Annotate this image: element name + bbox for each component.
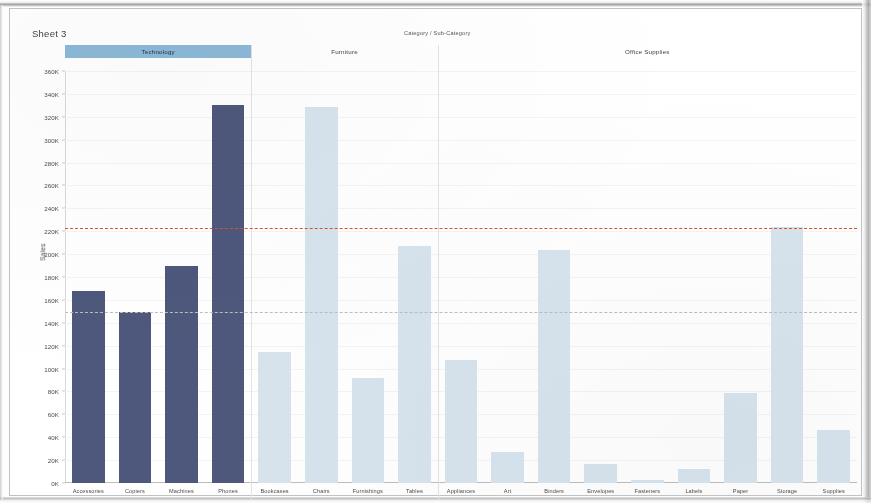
- scan-edge-bottom: [0, 497, 871, 503]
- y-axis-tick-label: 60K: [48, 411, 59, 418]
- bar-art[interactable]: [491, 452, 524, 483]
- y-axis-tick-mark: [62, 185, 65, 186]
- y-axis-tick-mark: [62, 254, 65, 255]
- x-axis-label-bookcases[interactable]: Bookcases: [261, 488, 289, 494]
- y-axis-tick-mark: [62, 460, 65, 461]
- y-axis-tick-label: 120K: [44, 342, 59, 349]
- sheet-title: Sheet 3: [32, 28, 67, 39]
- bar-storage[interactable]: [771, 227, 804, 483]
- x-axis-label-fasteners[interactable]: Fasteners: [634, 488, 660, 494]
- gridline: [65, 231, 857, 232]
- scan-edge-left: [0, 5, 3, 500]
- y-axis-tick-label: 140K: [44, 319, 59, 326]
- bar-chairs[interactable]: [305, 107, 338, 483]
- category-separator: [251, 45, 252, 500]
- y-axis-tick-mark: [62, 93, 65, 94]
- x-axis-label-storage[interactable]: Storage: [777, 488, 797, 494]
- y-axis-tick-label: 260K: [44, 182, 59, 189]
- x-axis-label-machines[interactable]: Machines: [169, 488, 194, 494]
- y-axis-tick-mark: [62, 162, 65, 163]
- gridline: [65, 94, 857, 95]
- category-separator: [438, 45, 439, 500]
- x-axis-label-chairs[interactable]: Chairs: [313, 488, 330, 494]
- reference-line-median[interactable]: [65, 312, 857, 313]
- y-axis-tick-label: 100K: [44, 365, 59, 372]
- gridline: [65, 163, 857, 164]
- y-axis-tick-label: 360K: [44, 68, 59, 75]
- x-axis-label-tables[interactable]: Tables: [406, 488, 423, 494]
- y-axis-tick-label: 0K: [51, 480, 59, 487]
- y-axis-tick-label: 320K: [44, 113, 59, 120]
- gridline: [65, 117, 857, 118]
- bar-bookcases[interactable]: [258, 352, 291, 483]
- y-axis-tick-label: 220K: [44, 228, 59, 235]
- bar-copiers[interactable]: [119, 312, 152, 483]
- y-axis-tick-label: 40K: [48, 434, 59, 441]
- bar-furnishings[interactable]: [352, 378, 385, 483]
- x-axis-label-art[interactable]: Art: [504, 488, 511, 494]
- reference-line-average[interactable]: [65, 228, 857, 229]
- x-axis-label-phones[interactable]: Phones: [218, 488, 238, 494]
- y-axis-tick-label: 300K: [44, 136, 59, 143]
- y-axis-tick-label: 80K: [48, 388, 59, 395]
- gridline: [65, 254, 857, 255]
- x-axis-label-appliances[interactable]: Appliances: [447, 488, 475, 494]
- y-axis-tick-mark: [62, 208, 65, 209]
- y-axis-tick-mark: [62, 299, 65, 300]
- bar-phones[interactable]: [212, 105, 245, 483]
- y-axis-tick-mark: [62, 71, 65, 72]
- gridline: [65, 140, 857, 141]
- chart-plot-area: 0K20K40K60K80K100K120K140K160K180K200K22…: [65, 71, 857, 483]
- x-axis-label-accessories[interactable]: Accessories: [73, 488, 104, 494]
- x-axis-label-envelopes[interactable]: Envelopes: [587, 488, 614, 494]
- y-axis-tick-label: 160K: [44, 296, 59, 303]
- field-header-category-subcategory[interactable]: Category / Sub-Category: [404, 30, 470, 36]
- gridline: [65, 185, 857, 186]
- y-axis-tick-mark: [62, 414, 65, 415]
- y-axis-tick-label: 180K: [44, 274, 59, 281]
- x-axis-label-labels[interactable]: Labels: [685, 488, 702, 494]
- gridline: [65, 71, 857, 72]
- bar-envelopes[interactable]: [584, 464, 617, 483]
- y-axis-tick-label: 240K: [44, 205, 59, 212]
- bar-appliances[interactable]: [445, 360, 478, 483]
- y-axis-tick-label: 200K: [44, 251, 59, 258]
- scan-edge-top: [0, 0, 871, 7]
- bar-labels[interactable]: [678, 469, 711, 483]
- scan-edge-right: [862, 0, 871, 503]
- bar-fasteners[interactable]: [631, 480, 664, 483]
- y-axis-tick-label: 20K: [48, 457, 59, 464]
- bar-supplies[interactable]: [817, 430, 850, 483]
- screenshot-root: FileDataWorksheetDashboardStoryAnalysisM…: [0, 0, 871, 503]
- chart-canvas: 0K20K40K60K80K100K120K140K160K180K200K22…: [65, 71, 857, 483]
- y-axis-tick-label: 280K: [44, 159, 59, 166]
- y-axis-tick-mark: [62, 483, 65, 484]
- worksheet-card: Sheet 3 Sales 0K20K40K60K80K100K120K140K…: [9, 8, 862, 496]
- x-axis-label-copiers[interactable]: Copiers: [125, 488, 145, 494]
- category-header-technology[interactable]: Technology: [65, 45, 251, 58]
- gridline: [65, 208, 857, 209]
- y-axis-tick-label: 340K: [44, 90, 59, 97]
- y-axis-tick-mark: [62, 368, 65, 369]
- bar-tables[interactable]: [398, 246, 431, 483]
- bar-accessories[interactable]: [72, 291, 105, 483]
- y-axis-tick-mark: [62, 437, 65, 438]
- x-axis-label-paper[interactable]: Paper: [733, 488, 748, 494]
- y-axis-tick-mark: [62, 231, 65, 232]
- bar-binders[interactable]: [538, 250, 571, 483]
- x-axis-label-binders[interactable]: Binders: [544, 488, 564, 494]
- y-axis-tick-mark: [62, 345, 65, 346]
- x-axis-label-furnishings[interactable]: Furnishings: [353, 488, 383, 494]
- category-header-office-supplies[interactable]: Office Supplies: [438, 45, 857, 58]
- y-axis-tick-mark: [62, 277, 65, 278]
- y-axis-tick-mark: [62, 139, 65, 140]
- x-axis-label-supplies[interactable]: Supplies: [823, 488, 845, 494]
- y-axis-tick-mark: [62, 322, 65, 323]
- category-header-furniture[interactable]: Furniture: [251, 45, 437, 58]
- bar-paper[interactable]: [724, 393, 757, 483]
- bar-machines[interactable]: [165, 266, 198, 483]
- y-axis-tick-mark: [62, 116, 65, 117]
- y-axis-tick-mark: [62, 391, 65, 392]
